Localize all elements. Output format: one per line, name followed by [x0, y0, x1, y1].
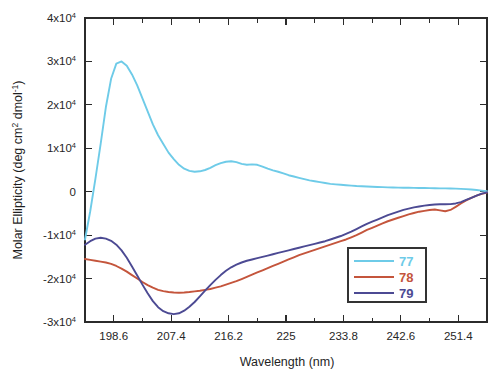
x-tick-label: 225 — [276, 330, 295, 342]
chart-legend[interactable]: 777879 — [348, 248, 426, 302]
y-tick-label: 2x104 — [47, 98, 76, 111]
y-tick-label: 0 — [70, 186, 76, 198]
y-tick-label: -2x104 — [43, 272, 76, 285]
x-tick-label: 242.6 — [386, 330, 415, 342]
cd-spectrum-figure: 198.6207.4216.2225233.8242.6251.4 -3x104… — [0, 0, 490, 377]
legend-label-78: 78 — [399, 270, 413, 285]
y-tick-label: 4x104 — [47, 11, 76, 24]
x-tick-label: 251.4 — [444, 330, 473, 342]
y-tick-label: 3x104 — [47, 54, 76, 67]
x-tick-label: 216.2 — [214, 330, 243, 342]
y-tick-label: -1x104 — [43, 228, 76, 241]
x-axis-title: Wavelength (nm) — [240, 355, 335, 369]
y-axis-title: Molar Ellipticity (deg cm2 dmol-1) — [10, 80, 25, 259]
y-axis-title-middle: dmol — [11, 92, 25, 123]
x-tick-label: 198.6 — [99, 330, 128, 342]
y-axis-title-suffix: ) — [11, 80, 25, 84]
legend-label-79: 79 — [399, 286, 413, 301]
cd-spectrum-chart: 198.6207.4216.2225233.8242.6251.4 -3x104… — [0, 0, 490, 377]
svg-text:Molar Ellipticity (deg cm2 dmo: Molar Ellipticity (deg cm2 dmol-1) — [10, 80, 25, 259]
y-tick-label: -3x104 — [43, 315, 76, 328]
x-tick-label: 207.4 — [157, 330, 186, 342]
x-tick-label: 233.8 — [329, 330, 358, 342]
y-axis-title-prefix: Molar Ellipticity (deg cm — [11, 128, 25, 260]
y-tick-label: 1x104 — [47, 141, 76, 154]
legend-label-77: 77 — [399, 254, 413, 269]
